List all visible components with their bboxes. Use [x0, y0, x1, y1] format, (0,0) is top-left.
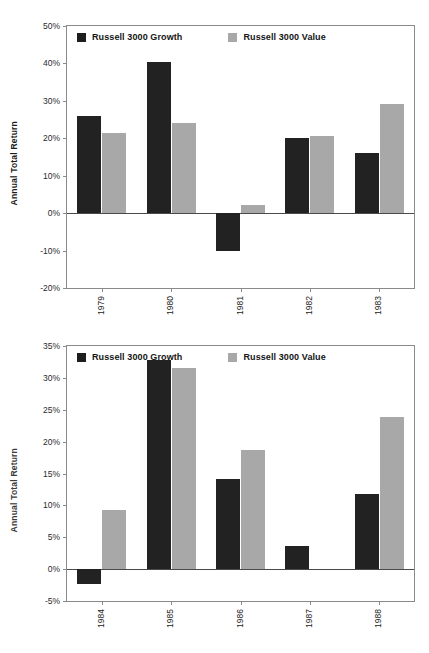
- bar-1980-growth: [147, 62, 171, 214]
- x-axis-label-1983: 1983: [373, 296, 383, 315]
- x-axis-label-1979: 1979: [96, 296, 106, 315]
- bar-1983-growth: [355, 153, 379, 213]
- bar-1982-value: [310, 136, 334, 213]
- y-axis-tick: [63, 410, 67, 411]
- x-axis-label-1981: 1981: [235, 296, 245, 315]
- y-axis-tick-label: -20%: [40, 283, 60, 293]
- y-axis-tick: [63, 251, 67, 252]
- x-axis-tick: [241, 601, 242, 605]
- y-axis-tick: [63, 101, 67, 102]
- y-axis-tick-label: 20%: [43, 437, 60, 447]
- legend-top: Russell 3000 Growth Russell 3000 Value: [77, 32, 326, 42]
- y-axis-title-top: Annual Total Return: [6, 0, 22, 326]
- bar-1988-value: [380, 417, 404, 569]
- bar-1979-value: [102, 133, 126, 213]
- x-axis-tick: [171, 288, 172, 292]
- x-axis-label-1986: 1986: [235, 609, 245, 628]
- legend-item-value: Russell 3000 Value: [228, 32, 325, 42]
- x-axis-label-1982: 1982: [304, 296, 314, 315]
- y-axis-tick-label: 50%: [43, 21, 60, 31]
- legend-swatch-growth-icon: [77, 33, 86, 42]
- legend-swatch-value-icon: [228, 33, 237, 42]
- x-axis-tick: [310, 601, 311, 605]
- y-axis-title-bottom: Annual Total Return: [6, 327, 22, 653]
- y-axis-tick: [63, 474, 67, 475]
- y-axis-tick: [63, 378, 67, 379]
- bar-1981-value: [241, 205, 265, 213]
- bar-1979-growth: [77, 116, 101, 213]
- zero-baseline: [67, 569, 414, 570]
- legend-item-growth: Russell 3000 Growth: [77, 32, 182, 42]
- y-axis-tick: [63, 601, 67, 602]
- chart-bottom: Annual Total Return Russell 3000 Growth …: [0, 327, 429, 653]
- y-axis-tick: [63, 537, 67, 538]
- bar-1986-growth: [216, 479, 240, 570]
- y-axis-tick: [63, 138, 67, 139]
- y-axis-tick: [63, 346, 67, 347]
- plot-area-top: Russell 3000 Growth Russell 3000 Value 5…: [66, 25, 415, 289]
- y-axis-tick-label: 10%: [43, 500, 60, 510]
- legend-label-value: Russell 3000 Value: [243, 352, 325, 362]
- bar-1981-growth: [216, 213, 240, 251]
- bar-1988-growth: [355, 494, 379, 569]
- legend-label-growth: Russell 3000 Growth: [92, 32, 182, 42]
- bar-1984-value: [102, 510, 126, 569]
- y-axis-tick-label: 30%: [43, 373, 60, 383]
- y-axis-tick-label: -5%: [45, 596, 60, 606]
- x-axis-tick: [310, 288, 311, 292]
- x-axis-tick: [379, 288, 380, 292]
- y-axis-tick-label: 0%: [48, 564, 60, 574]
- y-axis-tick: [63, 63, 67, 64]
- y-axis-tick-label: 30%: [43, 96, 60, 106]
- bar-1982-growth: [285, 138, 309, 214]
- bar-1983-value: [380, 104, 404, 213]
- plot-area-bottom: Russell 3000 Growth Russell 3000 Value 3…: [66, 345, 415, 602]
- y-axis-tick: [63, 288, 67, 289]
- x-axis-tick: [102, 601, 103, 605]
- legend-label-value: Russell 3000 Value: [243, 32, 325, 42]
- chart-top: Annual Total Return Russell 3000 Growth …: [0, 0, 429, 326]
- y-axis-tick-label: 0%: [48, 208, 60, 218]
- x-axis-tick: [171, 601, 172, 605]
- y-axis-tick-label: 40%: [43, 58, 60, 68]
- x-axis-tick: [102, 288, 103, 292]
- y-axis-tick-label: 25%: [43, 405, 60, 415]
- bar-1987-growth: [285, 546, 309, 569]
- x-axis-label-1988: 1988: [373, 609, 383, 628]
- x-axis-label-1984: 1984: [96, 609, 106, 628]
- x-axis-tick: [241, 288, 242, 292]
- zero-baseline: [67, 213, 414, 214]
- legend-item-value: Russell 3000 Value: [228, 352, 325, 362]
- y-axis-tick-label: 35%: [43, 341, 60, 351]
- x-axis-label-1987: 1987: [304, 609, 314, 628]
- bar-1985-growth: [147, 360, 171, 569]
- x-axis-label-1980: 1980: [165, 296, 175, 315]
- bar-1980-value: [172, 123, 196, 214]
- x-axis-label-1985: 1985: [165, 609, 175, 628]
- legend-swatch-growth-icon: [77, 353, 86, 362]
- bar-1985-value: [172, 368, 196, 569]
- bar-1984-growth: [77, 569, 101, 584]
- bar-1986-value: [241, 450, 265, 569]
- y-axis-tick: [63, 442, 67, 443]
- y-axis-tick-label: -10%: [40, 246, 60, 256]
- figure-page: Annual Total Return Russell 3000 Growth …: [0, 0, 429, 653]
- y-axis-tick: [63, 26, 67, 27]
- y-axis-tick: [63, 176, 67, 177]
- y-axis-tick-label: 10%: [43, 171, 60, 181]
- legend-bottom: Russell 3000 Growth Russell 3000 Value: [77, 352, 326, 362]
- x-axis-tick: [379, 601, 380, 605]
- y-axis-tick-label: 5%: [48, 532, 60, 542]
- y-axis-tick-label: 15%: [43, 469, 60, 479]
- y-axis-tick-label: 20%: [43, 133, 60, 143]
- y-axis-tick: [63, 505, 67, 506]
- legend-swatch-value-icon: [228, 353, 237, 362]
